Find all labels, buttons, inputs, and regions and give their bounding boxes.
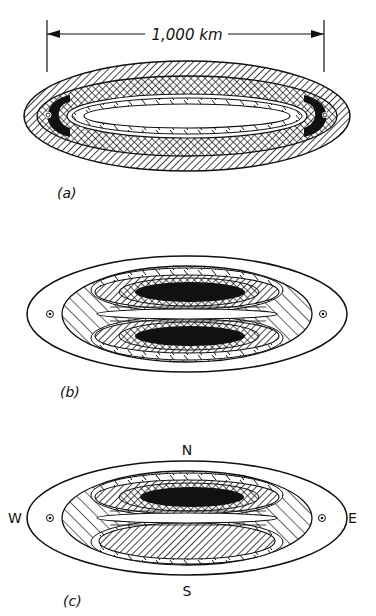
panel-label-a: (a) — [57, 185, 77, 201]
compass-north: N — [182, 442, 192, 458]
panel-label-b: (b) — [60, 384, 80, 400]
panel-a: 1,000 km (a) — [24, 20, 350, 201]
panel-label-c: (c) — [63, 593, 82, 609]
compass-south: S — [183, 583, 192, 599]
figure-canvas: 1,000 km (a) — [0, 0, 376, 616]
scale-label: 1,000 km — [151, 26, 222, 44]
compass-east: E — [348, 510, 357, 526]
panel-b: (b) — [27, 256, 347, 400]
compass-west: W — [8, 510, 22, 526]
panel-c: N S W E (c) — [8, 442, 357, 609]
